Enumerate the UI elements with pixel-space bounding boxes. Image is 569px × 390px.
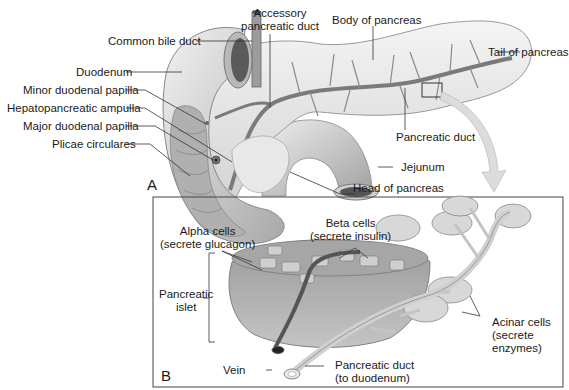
label-line-1: Alpha cells <box>160 225 255 238</box>
label-common-bile-duct: Common bile duct <box>108 35 201 48</box>
label-line-1: Beta cells <box>310 217 391 230</box>
label-hepatopancreatic-ampulla: Hepatopancreatic ampulla <box>7 102 141 115</box>
label-line-2: (to duodenum) <box>335 372 414 385</box>
label-duodenum: Duodenum <box>76 66 132 79</box>
label-major-duodenal-papilla: Major duodenal papilla <box>23 120 139 133</box>
label-acinar-cells: Acinar cells (secrete enzymes) <box>492 316 551 355</box>
islet-shape <box>229 240 430 354</box>
label-line-1: Accessory <box>241 7 319 20</box>
label-beta-cells: Beta cells (secrete insulin) <box>310 217 391 243</box>
label-jejunum: Jejunum <box>401 161 444 174</box>
label-line-2: (secrete <box>492 329 551 342</box>
label-line-2: islet <box>159 301 213 314</box>
label-pancreatic-islet: Pancreatic islet <box>159 288 213 314</box>
label-plicae-circulares: Plicae circulares <box>52 138 136 151</box>
label-line-2: (secrete glucagon) <box>160 238 255 251</box>
label-line-2: (secrete insulin) <box>310 230 391 243</box>
label-pancreatic-duct: Pancreatic duct <box>396 131 475 144</box>
label-minor-duodenal-papilla: Minor duodenal papilla <box>23 84 139 97</box>
label-vein: Vein <box>223 364 245 377</box>
label-tail-of-pancreas: Tail of pancreas <box>488 46 569 59</box>
label-body-of-pancreas: Body of pancreas <box>332 14 422 27</box>
panel-letter-a: A <box>147 176 157 193</box>
label-head-of-pancreas: Head of pancreas <box>353 182 444 195</box>
label-accessory-pancreatic-duct: Accessory pancreatic duct <box>241 7 319 33</box>
label-line-2: pancreatic duct <box>241 20 319 33</box>
label-pancreatic-duct-b: Pancreatic duct (to duodenum) <box>335 359 414 385</box>
label-line-3: enzymes) <box>492 342 551 355</box>
label-line-1: Pancreatic duct <box>335 359 414 372</box>
label-line-1: Pancreatic <box>159 288 213 301</box>
label-alpha-cells: Alpha cells (secrete glucagon) <box>160 225 255 251</box>
label-line-1: Acinar cells <box>492 316 551 329</box>
panel-letter-b: B <box>161 367 171 384</box>
